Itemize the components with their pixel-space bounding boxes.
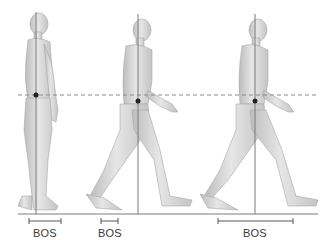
com-dot-3 <box>253 99 258 104</box>
bos-bracket-3 <box>218 218 293 224</box>
diagram-canvas <box>0 0 335 249</box>
bos-label-1: BOS <box>33 227 57 239</box>
gait-diagram: BOS BOS BOS <box>0 0 335 249</box>
bos-bracket-1 <box>29 218 61 224</box>
bos-label-3: BOS <box>243 227 267 239</box>
com-dot-1 <box>34 93 39 98</box>
figure-walking-1 <box>86 19 192 210</box>
bos-bracket-2 <box>101 218 118 224</box>
figure-standing <box>18 13 58 210</box>
com-dot-2 <box>136 99 141 104</box>
figure-walking-2 <box>200 19 318 210</box>
bos-label-2: BOS <box>98 227 122 239</box>
